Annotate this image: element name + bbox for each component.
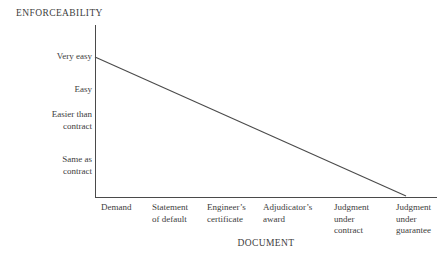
x-tick-statement-of-default: Statement of default <box>152 202 188 225</box>
x-tick-engineers-certificate: Engineer’s certificate <box>207 202 246 225</box>
y-tick-very-easy: Very easy <box>57 51 92 63</box>
y-tick-same-as-contract: Same as contract <box>62 154 92 177</box>
x-axis-title: DOCUMENT <box>95 238 437 248</box>
x-tick-adjudicators-award: Adjudicator’s award <box>263 202 312 225</box>
x-tick-demand: Demand <box>101 202 132 214</box>
x-tick-judgment-under-contract: Judgment under contract <box>334 202 369 237</box>
y-tick-easier-than-contract: Easier than contract <box>52 109 92 132</box>
x-tick-judgment-under-guarantee: Judgment under guarantee <box>396 202 431 237</box>
enforceability-vs-document-chart: ENFORCEABILITY Very easy Easy Easier tha… <box>0 0 447 262</box>
y-tick-easy: Easy <box>75 84 93 96</box>
